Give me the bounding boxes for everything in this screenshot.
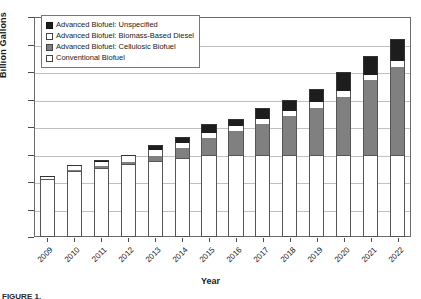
bar-segment [309,108,324,155]
bar-2022 [390,39,405,237]
bar-2016 [228,119,243,237]
x-axis-tick [290,238,291,242]
bar-segment [201,138,216,155]
bar-segment [67,171,82,237]
legend-swatch-icon [46,55,53,62]
bar-segment [228,155,243,238]
bar-segment [390,155,405,238]
x-axis-tick [317,238,318,242]
bar-segment [336,97,351,155]
x-axis-tick [398,238,399,242]
bar-segment [390,67,405,155]
x-axis-tick [209,238,210,242]
bar-segment [309,89,324,103]
bar-2021 [363,56,378,238]
x-axis-tick [101,238,102,242]
bar-segment [255,108,270,119]
x-axis-tick [74,238,75,242]
bar-segment [255,124,270,154]
bar-segment [282,100,297,111]
figure-caption: FIGURE 1. [2,292,41,299]
y-axis-tick [28,237,34,238]
bar-2017 [255,108,270,237]
x-axis-tick-label: 2010 [61,246,82,267]
bar-2010 [67,165,82,237]
bar-segment [148,161,163,237]
renewable-fuel-standard-chart: Billion Gallons 051015202530354020092010… [0,0,421,299]
bar-segment [363,56,378,75]
bar-segment [309,155,324,238]
x-axis-tick-label: 2015 [195,246,216,267]
bar-segment [255,155,270,238]
legend-swatch-icon [46,22,53,29]
bar-2012 [121,155,136,237]
bar-2009 [40,176,55,238]
x-axis-tick-label: 2014 [169,246,190,267]
legend-label: Advanced Biofuel: Biomass-Based Diesel [56,32,194,40]
bar-segment [228,131,243,154]
x-axis-tick-label: 2013 [142,246,163,267]
bar-segment [228,119,243,126]
x-axis-tick-label: 2018 [276,246,297,267]
x-axis-tick [182,238,183,242]
legend-label: Advanced Biofuel: Unspecified [56,21,158,29]
bar-2011 [94,160,109,237]
x-axis-tick-label: 2022 [384,246,405,267]
legend-item: Advanced Biofuel: Biomass-Based Diesel [46,31,194,41]
x-axis-tick [236,238,237,242]
legend-label: Conventional Biofuel [56,54,125,62]
x-axis-tick-label: 2020 [330,246,351,267]
y-axis-title: Billion Gallons [0,12,8,78]
x-axis-tick [371,238,372,242]
bar-2018 [282,100,297,238]
bar-segment [201,124,216,132]
x-axis-tick-label: 2019 [303,246,324,267]
legend-swatch-icon [46,33,53,40]
bar-segment [94,168,109,237]
x-axis-tick-label: 2021 [357,246,378,267]
x-axis-tick [128,238,129,242]
legend-label: Advanced Biofuel: Cellulosic Biofuel [56,43,176,51]
legend-swatch-icon [46,44,53,51]
x-axis-tick [47,238,48,242]
bar-segment [175,148,190,158]
legend-item: Conventional Biofuel [46,53,194,63]
bar-segment [282,116,297,155]
bar-segment [282,155,297,238]
bar-segment [390,39,405,61]
bar-2014 [175,137,190,237]
bar-2019 [309,89,324,238]
x-axis-tick [344,238,345,242]
x-axis-tick-label: 2009 [34,246,55,267]
bar-segment [40,179,55,237]
x-axis-tick-label: 2011 [88,246,109,267]
bar-segment [201,155,216,238]
bar-segment [336,72,351,91]
legend-item: Advanced Biofuel: Unspecified [46,20,194,30]
bar-segment [336,155,351,238]
bar-2013 [148,145,163,237]
bar-2020 [336,72,351,237]
x-axis-tick [263,238,264,242]
x-axis-tick-label: 2017 [249,246,270,267]
x-axis-tick [155,238,156,242]
bar-segment [363,155,378,238]
x-axis-title: Year [0,276,421,286]
x-axis-tick-label: 2016 [222,246,243,267]
bar-segment [363,80,378,154]
bar-2015 [201,124,216,237]
legend-item: Advanced Biofuel: Cellulosic Biofuel [46,42,194,52]
x-axis-tick-label: 2012 [115,246,136,267]
chart-legend: Advanced Biofuel: UnspecifiedAdvanced Bi… [41,15,200,68]
bar-segment [121,164,136,237]
bar-segment [175,158,190,237]
